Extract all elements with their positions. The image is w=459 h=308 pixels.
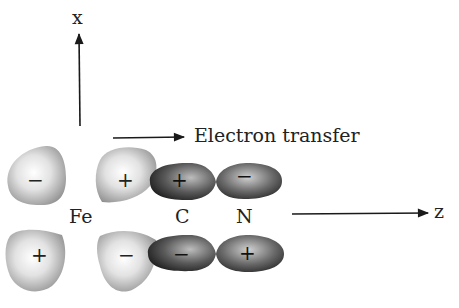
sign-fe-right-top: + (117, 168, 134, 192)
sign-fe-left-bottom: + (31, 243, 48, 267)
z-axis-arrow (292, 213, 428, 214)
sign-fe-right-bottom: − (118, 243, 135, 267)
orbital-diagram (0, 0, 459, 308)
electron-transfer-arrow (113, 137, 184, 138)
sign-fe-left-top: − (27, 168, 44, 192)
sign-n-bottom: + (239, 241, 256, 265)
electron-transfer-label: Electron transfer (194, 124, 360, 146)
atom-label-fe: Fe (69, 205, 92, 227)
sign-c-top: + (171, 168, 188, 192)
sign-c-bottom: − (173, 242, 190, 266)
atom-label-n: N (236, 205, 253, 227)
sign-n-top: − (236, 164, 253, 188)
z-axis-label: z (434, 200, 444, 222)
x-axis-arrow (79, 34, 80, 126)
x-axis-label: x (72, 6, 83, 28)
atom-label-c: C (175, 205, 190, 227)
